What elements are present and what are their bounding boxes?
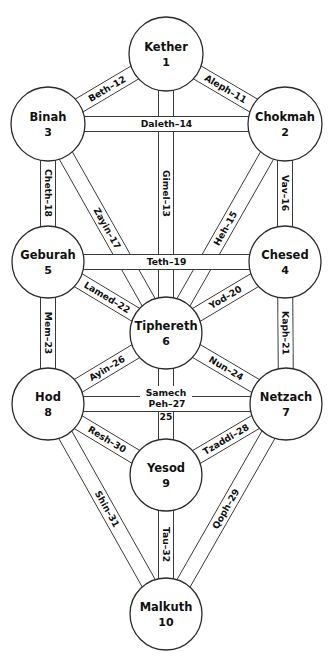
- sephira-number-chesed: 4: [281, 264, 289, 277]
- path-label-tzaddi-28: Tzaddi–28: [200, 420, 253, 459]
- path-label-text-vav-16: Vav–16: [280, 175, 291, 211]
- path-label-text-samech-25-letter: Samech: [146, 387, 187, 398]
- sephira-circle-yesod[interactable]: [130, 439, 202, 511]
- path-label-text-cheth-18: Cheth–18: [43, 169, 54, 217]
- sephira-name-tiphereth: Tiphereth: [134, 319, 197, 333]
- sephira-number-chokmah: 2: [281, 126, 289, 139]
- sephira-binah[interactable]: Binah3: [11, 87, 85, 161]
- path-label-vav-16: Vav–16: [278, 174, 291, 212]
- sephira-circle-binah[interactable]: [11, 87, 85, 161]
- path-label-gimel-13: Gimel–13: [159, 169, 172, 217]
- path-label-cheth-18: Cheth–18: [41, 169, 54, 217]
- path-label-tau-32: Tau–32: [159, 526, 172, 564]
- sephira-netzach[interactable]: Netzach7: [250, 368, 322, 440]
- sephira-geburah[interactable]: Geburah5: [12, 226, 84, 298]
- sephira-name-binah: Binah: [30, 110, 67, 124]
- sephira-circle-chesed[interactable]: [249, 226, 321, 298]
- sephira-kether[interactable]: Kether1: [129, 17, 203, 91]
- sephira-number-malkuth: 10: [158, 616, 174, 629]
- sephira-name-chesed: Chesed: [261, 248, 308, 262]
- sephira-name-geburah: Geburah: [20, 248, 75, 262]
- path-label-text-peh-27: Peh–27: [149, 398, 186, 409]
- path-label-lamed-22: Lamed–22: [81, 278, 132, 316]
- sephira-number-kether: 1: [162, 56, 170, 69]
- path-label-text-lamed-22: Lamed–22: [82, 279, 132, 315]
- tree-of-life-diagram: Kether1Chokmah2Binah3Chesed4Geburah5Tiph…: [0, 0, 335, 665]
- sephira-circle-netzach[interactable]: [250, 368, 322, 440]
- path-label-text-teth-19: Teth–19: [147, 256, 187, 267]
- path-label-text-tzaddi-28: Tzaddi–28: [201, 421, 251, 457]
- sephira-name-chokmah: Chokmah: [255, 110, 315, 124]
- sephira-hod[interactable]: Hod8: [12, 368, 84, 440]
- path-label-text-gimel-13: Gimel–13: [161, 170, 172, 217]
- sephira-malkuth[interactable]: Malkuth10: [130, 578, 202, 650]
- path-label-zayin-17: Zayin–17: [89, 204, 124, 253]
- sephira-chokmah[interactable]: Chokmah2: [248, 87, 322, 161]
- path-label-aleph-11: Aleph–11: [201, 71, 249, 107]
- sephira-tiphereth[interactable]: Tiphereth6: [130, 297, 202, 369]
- sephira-number-binah: 3: [44, 126, 52, 139]
- sephira-name-kether: Kether: [144, 40, 188, 54]
- path-label-text-mem-23: Mem–23: [43, 312, 54, 354]
- sephira-circle-tiphereth[interactable]: [130, 297, 202, 369]
- path-label-teth-19: Teth–19: [145, 255, 188, 268]
- sephira-circle-chokmah[interactable]: [248, 87, 322, 161]
- sephira-circle-geburah[interactable]: [12, 226, 84, 298]
- sephira-circle-malkuth[interactable]: [130, 578, 202, 650]
- path-label-text-daleth-14: Daleth–14: [141, 118, 193, 129]
- path-label-samech-25-number: 25: [160, 411, 173, 422]
- sephira-name-hod: Hod: [35, 390, 61, 404]
- path-label-text-kaph-21: Kaph–21: [280, 311, 291, 355]
- sephira-chesed[interactable]: Chesed4: [249, 226, 321, 298]
- sephira-circle-hod[interactable]: [12, 368, 84, 440]
- tree-of-life-canvas: Kether1Chokmah2Binah3Chesed4Geburah5Tiph…: [0, 0, 335, 665]
- path-label-mem-23: Mem–23: [41, 312, 54, 354]
- sephira-yesod[interactable]: Yesod9: [130, 439, 202, 511]
- sephira-number-geburah: 5: [44, 264, 52, 277]
- sephira-number-yesod: 9: [162, 477, 170, 490]
- path-label-text-samech-25-number: 25: [160, 411, 173, 422]
- path-label-peh-27: Peh–27: [148, 397, 186, 410]
- sephira-number-tiphereth: 6: [162, 335, 170, 348]
- sephira-circle-kether[interactable]: [129, 17, 203, 91]
- path-label-text-tau-32: Tau–32: [161, 527, 172, 562]
- sephira-number-hod: 8: [44, 406, 52, 419]
- sephira-name-yesod: Yesod: [146, 461, 185, 475]
- sephira-name-netzach: Netzach: [260, 390, 312, 404]
- path-label-daleth-14: Daleth–14: [140, 117, 194, 130]
- path-label-kaph-21: Kaph–21: [279, 311, 293, 355]
- sephira-name-malkuth: Malkuth: [140, 600, 193, 614]
- sephira-number-netzach: 7: [282, 406, 290, 419]
